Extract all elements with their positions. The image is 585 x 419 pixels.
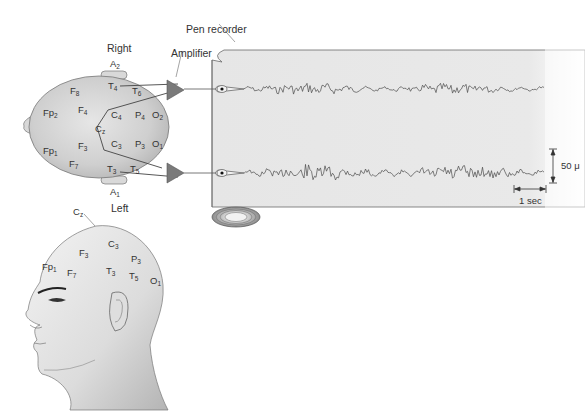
amplifier-label: Amplifier <box>171 48 212 59</box>
pen-recorder-label: Pen recorder <box>186 24 247 35</box>
time-scale-label: 1 sec <box>519 196 542 206</box>
electrode-cz-label: Cz <box>95 124 105 136</box>
side-electrode-c3-label: C3 <box>108 239 119 251</box>
side-electrode-t5-label: T5 <box>129 271 138 283</box>
electrode-f3-label: F3 <box>78 141 87 153</box>
side-electrode-f3-label: F3 <box>79 248 88 260</box>
left-label: Left <box>111 203 129 214</box>
electrode-t6-label: T6 <box>132 86 141 98</box>
side-electrode-o1-label: O1 <box>150 276 161 288</box>
paper-roll <box>212 207 260 227</box>
electrode-f7-label: F7 <box>69 159 78 171</box>
amplitude-scale-label: 50 μ <box>561 161 580 171</box>
electrode-o1-label: O1 <box>152 139 163 151</box>
electrode-p4-label: P4 <box>135 110 145 122</box>
pen-recorder-paper <box>212 48 585 213</box>
electrode-f8-label: F8 <box>70 86 79 98</box>
electrode-fp1-label: Fp1 <box>43 146 58 158</box>
electrode-t5-label: T5 <box>130 164 139 176</box>
electrode-p3-label: P3 <box>135 139 145 151</box>
side-view-head <box>26 214 168 410</box>
electrode-a1-label: A1 <box>110 187 120 199</box>
electrode-o2-label: O2 <box>152 110 163 122</box>
electrode-c3-label: C3 <box>111 139 122 151</box>
electrode-c4-label: C4 <box>111 110 122 122</box>
electrode-a2-label: A2 <box>110 59 120 71</box>
side-electrode-p3-label: P3 <box>131 254 141 266</box>
electrode-t3-label: T3 <box>107 164 116 176</box>
side-electrode-t3-label: T3 <box>106 266 115 278</box>
electrode-f4-label: F4 <box>78 105 87 117</box>
amplifier-top-icon <box>167 80 184 100</box>
right-label: Right <box>107 43 132 54</box>
electrode-t4-label: T4 <box>108 81 117 93</box>
side-electrode-fp1-label: Fp1 <box>42 262 57 274</box>
electrode-fp2-label: Fp2 <box>43 108 58 120</box>
eeg-diagram-canvas <box>0 0 585 419</box>
side-electrode-f7-label: F7 <box>67 268 76 280</box>
amplifier-bottom-icon <box>167 163 184 183</box>
side-electrode-cz-label: Cz <box>73 207 83 219</box>
